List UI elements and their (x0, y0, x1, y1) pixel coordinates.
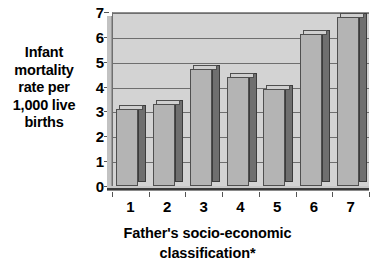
bar-side-face (212, 65, 220, 182)
gridline (113, 38, 369, 39)
gridline (113, 63, 369, 64)
bar-top-face (193, 65, 217, 70)
x-axis-tick-labels: 1234567 (107, 198, 369, 220)
bar (153, 99, 183, 186)
x-axis-tick-label: 5 (264, 198, 290, 215)
x-axis-tick-mark (149, 192, 150, 197)
bar-front-face (227, 77, 249, 186)
bar (337, 12, 367, 186)
bar-side-face (249, 73, 257, 182)
gridline (113, 13, 369, 14)
y-axis-tick-label: 6 (86, 29, 104, 44)
bar-top-face (340, 13, 364, 18)
x-axis-tick-mark (296, 192, 297, 197)
bar-front-face (337, 17, 359, 186)
bar-top-face (266, 85, 290, 90)
x-axis-title: Father's socio-economic classification* (60, 223, 355, 263)
x-axis-tick-mark (222, 192, 223, 197)
plot-area-wrapper (107, 12, 369, 190)
plot-area (112, 12, 369, 186)
bar-front-face (153, 104, 175, 186)
bar-front-face (263, 89, 285, 186)
bar (263, 84, 293, 186)
bar-top-face (156, 100, 180, 105)
bar-front-face (300, 34, 322, 186)
bar-side-face (285, 85, 293, 182)
x-axis-tick-mark (369, 192, 370, 197)
bar-chart: Infant mortality rate per 1,000 live bir… (0, 0, 377, 270)
y-axis-tick-label: 1 (86, 154, 104, 169)
axis-baseline (107, 188, 369, 190)
bar-side-face (138, 105, 146, 182)
x-axis-tick-label: 6 (301, 198, 327, 215)
bar (116, 104, 146, 186)
x-axis-tick-label: 1 (117, 198, 143, 215)
x-axis-tick-mark (185, 192, 186, 197)
y-axis-tick-label: 3 (86, 104, 104, 119)
y-axis-tick-label: 2 (86, 129, 104, 144)
x-axis-tick-mark (259, 192, 260, 197)
bar-top-face (119, 105, 143, 110)
bar (300, 29, 330, 186)
bar-top-face (230, 73, 254, 78)
bar-front-face (116, 109, 138, 186)
x-axis-tick-mark (112, 192, 113, 197)
x-axis-tick-label: 3 (191, 198, 217, 215)
bar (227, 72, 257, 186)
y-axis-tick-label: 7 (86, 5, 104, 20)
bar-front-face (190, 69, 212, 186)
x-axis-tick-label: 2 (154, 198, 180, 215)
y-axis-tick-label: 0 (86, 179, 104, 194)
x-axis-tick-label: 4 (228, 198, 254, 215)
y-axis-title: Infant mortality rate per 1,000 live bir… (2, 44, 86, 132)
x-axis-tick-mark (332, 192, 333, 197)
bar-side-face (322, 30, 330, 182)
y-axis-tick-label: 4 (86, 79, 104, 94)
x-axis-tick-label: 7 (338, 198, 364, 215)
bar-side-face (175, 100, 183, 182)
bar (190, 64, 220, 186)
y-axis-tick-label: 5 (86, 54, 104, 69)
bar-top-face (303, 30, 327, 35)
bar-side-face (359, 13, 367, 182)
